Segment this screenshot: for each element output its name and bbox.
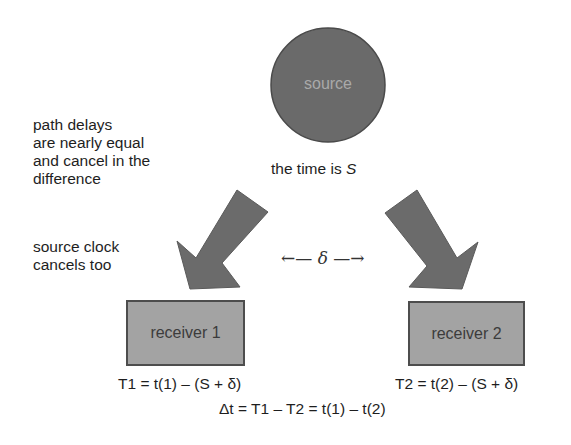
source-time-text: the time is — [271, 160, 346, 177]
source-clock-note: source clock cancels too — [33, 238, 119, 274]
source-time-variable: S — [346, 160, 356, 177]
left-arrow-icon: ←— — [281, 248, 312, 268]
receiver-2-label: receiver 2 — [431, 325, 501, 343]
source-label: source — [278, 75, 378, 93]
note-line: difference — [33, 170, 150, 188]
receiver-1-equation: T1 = t(1) – (S + δ) — [118, 375, 241, 393]
right-arrow-icon: —→ — [333, 248, 364, 268]
right-signal-arrow — [385, 190, 478, 289]
left-signal-arrow — [177, 190, 268, 289]
note-line: are nearly equal — [33, 134, 150, 152]
receiver-2-equation: T2 = t(2) – (S + δ) — [395, 375, 518, 393]
receiver-2-box: receiver 2 — [408, 301, 525, 366]
delta-symbol: δ — [318, 248, 328, 268]
receiver-1-label: receiver 1 — [150, 324, 220, 342]
note-line: source clock — [33, 238, 119, 256]
separation-indicator: ←— δ —→ — [281, 248, 365, 268]
note-line: and cancel in the — [33, 152, 150, 170]
difference-equation: Δt = T1 – T2 = t(1) – t(2) — [219, 400, 386, 418]
receiver-1-box: receiver 1 — [126, 300, 245, 366]
note-line: cancels too — [33, 256, 119, 274]
source-time-caption: the time is S — [271, 160, 356, 178]
note-line: path delays — [33, 116, 150, 134]
path-delays-note: path delays are nearly equal and cancel … — [33, 116, 150, 188]
